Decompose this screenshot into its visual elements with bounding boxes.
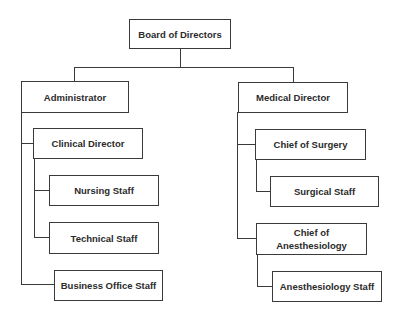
- connector-business-branch: [21, 284, 54, 285]
- node-technical-staff: Technical Staff: [49, 222, 159, 254]
- node-board-of-directors: Board of Directors: [129, 19, 231, 49]
- connector-clinical-branch: [21, 143, 33, 144]
- connector-surgical-branch: [256, 191, 270, 192]
- node-surgical-staff: Surgical Staff: [270, 176, 379, 207]
- node-administrator: Administrator: [21, 81, 129, 113]
- connector-surgery-branch: [237, 144, 255, 145]
- node-chief-of-anesthesiology: Chief of Anesthesiology: [256, 223, 367, 255]
- node-clinical-director: Clinical Director: [33, 128, 143, 159]
- node-nursing-staff: Nursing Staff: [49, 175, 159, 206]
- node-business-office-staff: Business Office Staff: [54, 270, 163, 301]
- org-chart: Board of Directors Administrator Medical…: [0, 0, 404, 319]
- connector-board-down: [180, 48, 181, 68]
- connector-medical-trunk: [237, 112, 238, 239]
- node-anesthesiology-staff: Anesthesiology Staff: [272, 271, 382, 302]
- connector-medical-drop: [293, 67, 294, 82]
- connector-anesth-branch: [237, 238, 256, 239]
- connector-technical-branch: [34, 237, 49, 238]
- connector-top-horizontal: [74, 67, 294, 68]
- node-chief-of-surgery: Chief of Surgery: [255, 129, 366, 160]
- connector-anesth-trunk: [257, 254, 258, 287]
- connector-anesthstaff-branch: [257, 286, 272, 287]
- connector-surgery-trunk: [256, 159, 257, 192]
- connector-admin-drop: [74, 67, 75, 81]
- connector-admin-trunk: [21, 112, 22, 285]
- node-medical-director: Medical Director: [238, 82, 348, 113]
- connector-nursing-branch: [34, 190, 49, 191]
- connector-clinical-trunk: [34, 158, 35, 238]
